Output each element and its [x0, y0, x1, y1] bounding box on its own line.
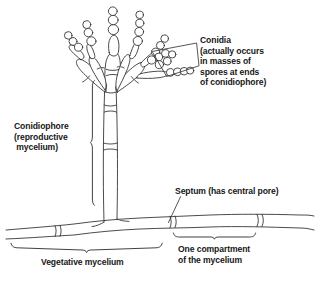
septum-label: Septum (has central pore) [175, 186, 279, 197]
conidiophore-label: Conidiophore (reproductive mycelium) [14, 121, 69, 153]
compartment-brace [173, 233, 255, 239]
figure-canvas: Conidia (actually occurs in masses of sp… [0, 0, 320, 285]
conidiophore-bracket [90, 81, 94, 206]
conidiophore-stalk [92, 92, 129, 227]
vegetative-brace [11, 243, 162, 252]
conidia-label: Conidia (actually occurs in masses of sp… [200, 35, 266, 88]
vegetative-mycelium-label: Vegetative mycelium [41, 257, 124, 268]
vegetative-hypha [6, 214, 314, 239]
compartment-label: One compartment of the mycelium [178, 244, 250, 265]
